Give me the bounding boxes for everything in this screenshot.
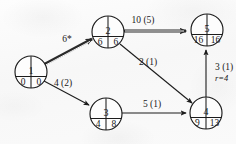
edge-label-1-to-3: 4 (2) xyxy=(54,78,72,89)
node-2-latest-time: 6 xyxy=(113,37,118,47)
edge-1-to-2-inner-gap xyxy=(46,41,90,64)
edge-label-2-to-5: 10 (5) xyxy=(132,15,155,26)
edge-label-4-to-5-reserve: r=4 xyxy=(215,73,229,83)
node-1-latest-time: 0 xyxy=(36,77,41,87)
node-2-label: 2 xyxy=(106,25,111,36)
edge-label-4-to-5: 3 (1) xyxy=(215,62,233,73)
node-5-latest-time: 16 xyxy=(211,35,221,45)
node-4-label: 4 xyxy=(204,106,209,117)
node-4[interactable]: 4 9 13 xyxy=(190,97,222,129)
node-5-label: 5 xyxy=(205,23,210,34)
node-1-earliest-time: 0 xyxy=(21,77,26,87)
network-diagram-canvas: 1 0 0 2 6 6 3 4 8 4 9 1 xyxy=(0,0,236,144)
node-4-latest-time: 13 xyxy=(210,118,220,128)
node-1-label: 1 xyxy=(29,65,34,76)
node-3-earliest-time: 4 xyxy=(96,119,101,129)
network-graph: 1 0 0 2 6 6 3 4 8 4 9 1 xyxy=(0,0,236,144)
node-3[interactable]: 3 4 8 xyxy=(90,98,122,130)
node-1[interactable]: 1 0 0 xyxy=(15,56,47,88)
edge-2-to-4-line xyxy=(120,44,192,103)
node-3-label: 3 xyxy=(104,107,109,118)
node-2[interactable]: 2 6 6 xyxy=(92,16,124,48)
node-4-earliest-time: 9 xyxy=(195,118,200,128)
edge-label-2-to-4: 2 (1) xyxy=(139,57,157,68)
edge-2-to-4 xyxy=(120,44,192,103)
edge-label-3-to-4: 5 (1) xyxy=(143,99,161,110)
node-5-earliest-time: 16 xyxy=(194,35,204,45)
node-2-earliest-time: 6 xyxy=(98,37,103,47)
node-3-latest-time: 8 xyxy=(111,119,116,129)
edge-label-1-to-2: 6* xyxy=(62,34,72,44)
node-5[interactable]: 5 16 16 xyxy=(191,14,223,46)
